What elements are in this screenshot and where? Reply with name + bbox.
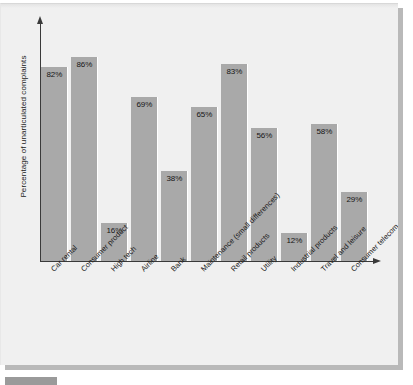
bar-value-label: 83% [221, 67, 248, 76]
bar-value-label: 29% [341, 195, 368, 204]
bar-value-label: 12% [281, 236, 308, 245]
panel-shadow-right [398, 8, 403, 368]
chart-panel: Percentage of unarticulated complaints 8… [0, 3, 398, 365]
bar [71, 57, 98, 261]
caption-tag [5, 377, 57, 385]
bar-value-label: 38% [161, 174, 188, 183]
bar [161, 171, 188, 261]
panel-shadow-bottom [5, 365, 403, 370]
bar-value-label: 56% [251, 131, 278, 140]
y-axis-arrow-icon [37, 16, 43, 24]
bar-value-label: 58% [311, 127, 338, 136]
figure: Percentage of unarticulated complaints 8… [0, 0, 413, 385]
x-axis-arrow-icon [373, 258, 381, 264]
bar-value-label: 69% [131, 100, 158, 109]
bar [191, 107, 218, 261]
y-axis-title: Percentage of unarticulated complaints [19, 27, 28, 227]
bar-value-label: 86% [71, 60, 98, 69]
bar [131, 97, 158, 261]
bar-value-label: 65% [191, 110, 218, 119]
caption-row [5, 377, 413, 385]
bar-value-label: 82% [41, 70, 68, 79]
bar [41, 67, 68, 261]
